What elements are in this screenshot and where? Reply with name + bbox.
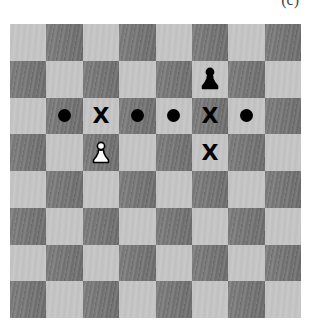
move-dot-marker [131,109,144,122]
square-f5[interactable]: X [192,134,228,171]
square-a4[interactable] [10,171,46,208]
square-b8[interactable] [46,24,82,61]
square-h4[interactable] [265,171,301,208]
white-pawn-icon[interactable] [90,141,112,165]
square-b2[interactable] [46,245,82,282]
square-b7[interactable] [46,61,82,98]
square-e5[interactable] [156,134,192,171]
move-dot-marker [240,109,253,122]
square-a7[interactable] [10,61,46,98]
square-h2[interactable] [265,245,301,282]
square-e8[interactable] [156,24,192,61]
square-g8[interactable] [228,24,264,61]
square-h1[interactable] [265,281,301,318]
square-b6[interactable] [46,98,82,135]
square-e3[interactable] [156,208,192,245]
square-d8[interactable] [119,24,155,61]
square-d1[interactable] [119,281,155,318]
square-a1[interactable] [10,281,46,318]
square-e6[interactable] [156,98,192,135]
square-h7[interactable] [265,61,301,98]
square-f6[interactable]: X [192,98,228,135]
move-dot-marker [58,109,71,122]
square-d4[interactable] [119,171,155,208]
square-c3[interactable] [83,208,119,245]
square-c7[interactable] [83,61,119,98]
square-e1[interactable] [156,281,192,318]
square-a6[interactable] [10,98,46,135]
square-g5[interactable] [228,134,264,171]
square-f1[interactable] [192,281,228,318]
square-g7[interactable] [228,61,264,98]
square-e2[interactable] [156,245,192,282]
square-e4[interactable] [156,171,192,208]
square-a3[interactable] [10,208,46,245]
square-c2[interactable] [83,245,119,282]
square-c8[interactable] [83,24,119,61]
square-h5[interactable] [265,134,301,171]
chess-board: XXX [10,24,301,318]
square-g6[interactable] [228,98,264,135]
square-c4[interactable] [83,171,119,208]
x-marker: X [202,142,219,164]
square-f3[interactable] [192,208,228,245]
square-d5[interactable] [119,134,155,171]
square-d6[interactable] [119,98,155,135]
square-h3[interactable] [265,208,301,245]
square-a5[interactable] [10,134,46,171]
square-b1[interactable] [46,281,82,318]
black-pawn-icon[interactable] [199,67,221,91]
x-marker: X [202,105,219,127]
square-a8[interactable] [10,24,46,61]
square-g1[interactable] [228,281,264,318]
move-dot-marker [167,109,180,122]
square-b4[interactable] [46,171,82,208]
square-g2[interactable] [228,245,264,282]
square-f2[interactable] [192,245,228,282]
square-c6[interactable]: X [83,98,119,135]
square-f4[interactable] [192,171,228,208]
square-f7[interactable] [192,61,228,98]
square-d2[interactable] [119,245,155,282]
square-h8[interactable] [265,24,301,61]
square-e7[interactable] [156,61,192,98]
square-g3[interactable] [228,208,264,245]
square-c1[interactable] [83,281,119,318]
square-d7[interactable] [119,61,155,98]
figure-caption: (c) [281,0,299,9]
square-b5[interactable] [46,134,82,171]
square-h6[interactable] [265,98,301,135]
square-c5[interactable] [83,134,119,171]
square-f8[interactable] [192,24,228,61]
x-marker: X [92,105,109,127]
square-g4[interactable] [228,171,264,208]
square-d3[interactable] [119,208,155,245]
square-b3[interactable] [46,208,82,245]
square-a2[interactable] [10,245,46,282]
